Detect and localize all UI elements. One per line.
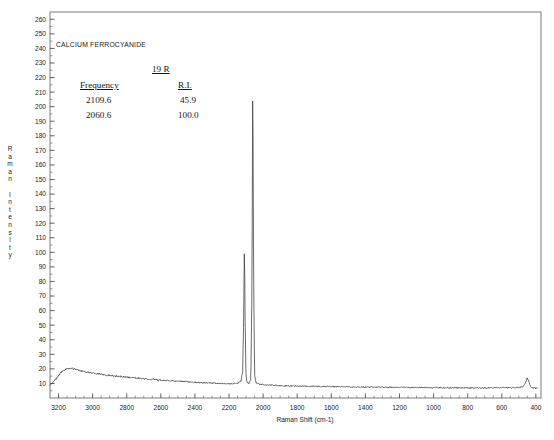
x-axis-ticks: 3200300028002600240022002000180016001400… <box>51 394 542 412</box>
x-tick-label: 2000 <box>256 404 271 411</box>
y-tick-label: 80 <box>39 278 47 285</box>
y-tick-label: 100 <box>35 249 46 256</box>
x-tick-label: 2400 <box>188 404 203 411</box>
x-tick-label: 2800 <box>119 404 134 411</box>
x-axis-title: Raman Shift (cm-1) <box>276 416 333 424</box>
y-tick-label: 90 <box>39 263 47 270</box>
table-cell-frequency: 2109.6 <box>86 95 111 105</box>
y-tick-label: 60 <box>39 307 47 314</box>
sample-name-label: CALCIUM FERROCYANIDE <box>56 41 146 48</box>
y-tick-label: 50 <box>39 322 47 329</box>
y-tick-label: 110 <box>35 234 46 241</box>
y-tick-label: 240 <box>35 45 46 52</box>
spectrum-code-label: 19 R <box>152 64 170 74</box>
y-tick-label: 160 <box>35 161 46 168</box>
spectrum-line <box>50 101 537 389</box>
y-tick-label: 20 <box>39 365 47 372</box>
y-tick-label: 200 <box>35 103 46 110</box>
y-tick-label: 30 <box>39 351 47 358</box>
y-tick-label: 10 <box>39 380 47 387</box>
x-tick-label: 1000 <box>426 404 441 411</box>
y-tick-label: 130 <box>35 205 46 212</box>
x-tick-label: 1400 <box>358 404 373 411</box>
y-tick-label: 250 <box>35 30 46 37</box>
plot-canvas: 3200300028002600240022002000180016001400… <box>0 0 554 440</box>
x-tick-label: 3200 <box>51 404 66 411</box>
y-tick-label: 260 <box>35 16 46 23</box>
plot-frame <box>50 12 541 398</box>
y-tick-label: 140 <box>35 190 46 197</box>
y-axis-ticks: 1020304050607080901001101201301401501601… <box>35 16 55 391</box>
x-tick-label: 800 <box>462 404 473 411</box>
table-header-frequency: Frequency <box>80 80 119 90</box>
table-cell-ri: 45.9 <box>180 95 196 105</box>
y-tick-label: 230 <box>35 59 46 66</box>
y-tick-label: 70 <box>39 292 47 299</box>
y-tick-label: 40 <box>39 336 47 343</box>
x-tick-label: 1800 <box>290 404 305 411</box>
spectrum-trace <box>50 101 537 389</box>
raman-spectrum-figure: Raman Intensity 320030002800260024002200… <box>0 0 554 440</box>
x-tick-label: 400 <box>530 404 541 411</box>
y-tick-label: 190 <box>35 118 46 125</box>
x-tick-label: 2200 <box>222 404 237 411</box>
y-tick-label: 210 <box>35 89 46 96</box>
x-tick-label: 1600 <box>324 404 339 411</box>
x-tick-label: 1200 <box>392 404 407 411</box>
y-tick-label: 170 <box>35 147 46 154</box>
y-tick-label: 220 <box>35 74 46 81</box>
y-tick-label: 180 <box>35 132 46 139</box>
y-tick-label: 120 <box>35 220 46 227</box>
table-header-ri: R.I. <box>178 80 192 90</box>
table-cell-frequency: 2060.6 <box>86 110 111 120</box>
page-footer-artifact <box>150 429 430 439</box>
x-tick-label: 2600 <box>153 404 168 411</box>
x-tick-label: 600 <box>496 404 507 411</box>
x-tick-label: 3000 <box>85 404 100 411</box>
y-tick-label: 150 <box>35 176 46 183</box>
table-cell-ri: 100.0 <box>178 110 199 120</box>
